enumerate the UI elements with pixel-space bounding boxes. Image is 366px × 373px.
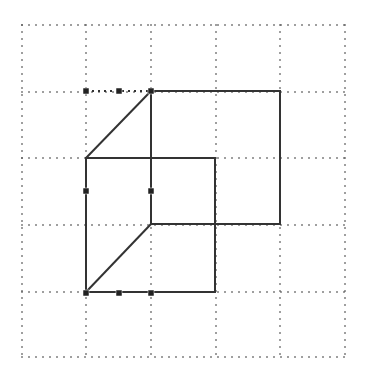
grid-dot: [85, 101, 87, 103]
grid-dot: [344, 87, 346, 89]
grid-dot: [105, 224, 107, 226]
grid-dot: [215, 31, 217, 33]
grid-dot: [154, 24, 156, 26]
resize-handle[interactable]: [83, 290, 89, 296]
grid-dot: [150, 80, 152, 82]
grid-dot: [279, 346, 281, 348]
grid-dot: [21, 129, 23, 131]
resize-handle[interactable]: [148, 290, 154, 296]
grid-dot: [238, 291, 240, 293]
grid-dot: [344, 171, 346, 173]
grid-dot: [279, 248, 281, 250]
grid-dot: [344, 80, 346, 82]
grid-dot: [21, 269, 23, 271]
grid-dot: [112, 356, 114, 358]
grid-dot: [150, 255, 152, 257]
grid-dot: [161, 356, 163, 358]
grid-dot: [315, 157, 317, 159]
grid-dot: [279, 241, 281, 243]
grid-dot: [280, 24, 282, 26]
grid-dot: [287, 24, 289, 26]
grid-dot: [70, 24, 72, 26]
grid-dot: [273, 157, 275, 159]
grid-dot: [294, 224, 296, 226]
grid-dot: [343, 224, 345, 226]
grid-dot: [344, 129, 346, 131]
grid-dot: [147, 356, 149, 358]
grid-dot: [273, 24, 275, 26]
resize-handle[interactable]: [83, 88, 89, 94]
grid-dot: [98, 224, 100, 226]
grid-dot: [150, 234, 152, 236]
grid-dot: [70, 356, 72, 358]
grid-dot: [215, 129, 217, 131]
grid-dot: [21, 297, 23, 299]
grid-dot: [215, 297, 217, 299]
grid-dot: [344, 220, 346, 222]
grid-dot: [238, 356, 240, 358]
grid-dot: [322, 356, 324, 358]
grid-dot: [42, 91, 44, 93]
grid-dot: [49, 291, 51, 293]
grid-dot: [150, 73, 152, 75]
grid-dot: [21, 291, 23, 293]
resize-handle[interactable]: [148, 88, 154, 94]
grid-dot: [336, 356, 338, 358]
connector-lines[interactable]: [86, 91, 151, 292]
grid-dot: [301, 224, 303, 226]
grid-dot: [279, 262, 281, 264]
grid-dot: [77, 24, 79, 26]
connector-line[interactable]: [86, 91, 151, 158]
resize-handle[interactable]: [148, 188, 154, 194]
grid-dot: [126, 224, 128, 226]
resize-handle[interactable]: [83, 188, 89, 194]
grid-dot: [28, 91, 30, 93]
grid-dot: [140, 24, 142, 26]
grid-dot: [56, 24, 58, 26]
grid-dot: [21, 122, 23, 124]
grid-dot: [294, 24, 296, 26]
grid-dot: [21, 206, 23, 208]
grid-dot: [279, 227, 281, 229]
grid-dot: [21, 59, 23, 61]
grid-dot: [215, 318, 217, 320]
grid-dot: [56, 356, 58, 358]
grid-dot: [280, 356, 282, 358]
grid-dot: [150, 269, 152, 271]
grid-dot: [21, 234, 23, 236]
grid-dot: [85, 94, 87, 96]
grid-dot: [21, 178, 23, 180]
grid-dot: [301, 291, 303, 293]
grid-dot: [21, 356, 23, 358]
grid-dot: [279, 297, 281, 299]
grid-dot: [150, 318, 152, 320]
grid-dot: [91, 356, 93, 358]
grid-dot: [315, 291, 317, 293]
grid-dot: [150, 325, 152, 327]
connector-line[interactable]: [86, 224, 151, 292]
grid-dot: [210, 24, 212, 26]
grid-dot: [344, 185, 346, 187]
grid-dot: [344, 241, 346, 243]
grid-dot: [56, 157, 58, 159]
grid-dot: [56, 224, 58, 226]
grid-dot: [49, 356, 51, 358]
grid-dot: [63, 291, 65, 293]
resize-handle[interactable]: [116, 88, 122, 94]
grid-dot: [215, 108, 217, 110]
grid-dot: [215, 38, 217, 40]
grid-dot: [21, 192, 23, 194]
grid-dot: [150, 339, 152, 341]
selection-handles[interactable]: [83, 88, 154, 296]
resize-handle[interactable]: [116, 290, 122, 296]
grid-dot: [343, 157, 345, 159]
cube-drawing[interactable]: [86, 91, 280, 292]
grid-dot: [49, 91, 51, 93]
drawing-canvas[interactable]: [0, 0, 366, 373]
grid-dot: [21, 241, 23, 243]
grid-dot: [344, 52, 346, 54]
grid-dot: [112, 24, 114, 26]
grid-dot: [224, 157, 226, 159]
grid-dot: [287, 291, 289, 293]
grid-dot: [344, 136, 346, 138]
